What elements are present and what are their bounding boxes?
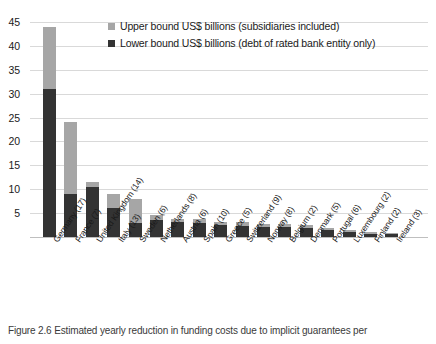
bar-series-group bbox=[30, 22, 428, 237]
y-axis-tick-label: 5 bbox=[0, 208, 20, 218]
legend-swatch-icon bbox=[108, 23, 115, 30]
y-axis-tick-label: 25 bbox=[0, 113, 20, 123]
figure-container: 51015202530354045 Germany (17)France (7)… bbox=[0, 0, 436, 344]
y-axis-tick-label: 45 bbox=[0, 17, 20, 27]
legend-item[interactable]: Upper bound US$ billions (subsidiaries i… bbox=[108, 19, 408, 34]
legend-item-label: Upper bound US$ billions (subsidiaries i… bbox=[120, 21, 339, 32]
bar-segment-lower-bound[interactable] bbox=[43, 89, 56, 237]
bar-segment-upper-bound[interactable] bbox=[64, 122, 77, 194]
bar-segment-upper-bound[interactable] bbox=[43, 27, 56, 89]
legend-swatch-icon bbox=[108, 40, 115, 47]
y-axis-tick-label: 15 bbox=[0, 160, 20, 170]
x-axis-labels: Germany (17)France (7)United Kingdom (14… bbox=[30, 239, 430, 315]
chart-legend: Upper bound US$ billions (subsidiaries i… bbox=[108, 19, 408, 53]
y-axis-tick-label: 35 bbox=[0, 65, 20, 75]
y-axis-tick-label: 10 bbox=[0, 184, 20, 194]
chart-plot-area: 51015202530354045 bbox=[30, 22, 428, 237]
legend-item[interactable]: Lower bound US$ billions (debt of rated … bbox=[108, 36, 408, 51]
y-axis-tick-label: 30 bbox=[0, 89, 20, 99]
legend-item-label: Lower bound US$ billions (debt of rated … bbox=[120, 38, 375, 49]
y-axis-tick-label: 20 bbox=[0, 136, 20, 146]
figure-caption: Figure 2.6 Estimated yearly reduction in… bbox=[8, 325, 432, 337]
y-axis-tick-label: 40 bbox=[0, 41, 20, 51]
bar-group[interactable] bbox=[43, 27, 56, 237]
